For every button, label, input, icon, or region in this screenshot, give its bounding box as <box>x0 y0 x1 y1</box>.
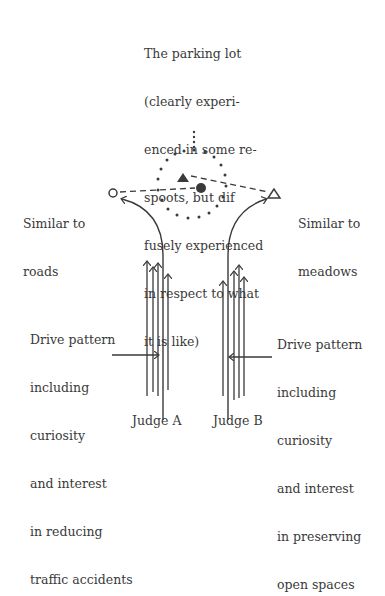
label-line: enced in some re- <box>144 142 263 158</box>
label-line: traffic accidents <box>30 572 133 588</box>
label-line: Similar to <box>298 216 360 232</box>
label-line: curiosity <box>277 433 362 449</box>
parking-lot-label: The parking lot (clearly experi- enced i… <box>144 14 263 366</box>
judge-a-label: Judge A <box>132 413 181 429</box>
label-line: The parking lot <box>144 46 263 62</box>
label-line: Similar to <box>23 216 85 232</box>
label-line: in preserving <box>277 529 362 545</box>
label-line: it is like) <box>144 334 263 350</box>
open-triangle-icon <box>268 189 280 198</box>
similar-to-roads-label: Similar to roads <box>23 184 85 296</box>
label-line: and interest <box>30 476 133 492</box>
label-line: spoots, but dif <box>144 190 263 206</box>
label-line: including <box>277 385 362 401</box>
similar-to-meadows-label: Similar to meadows <box>298 184 360 296</box>
drive-pattern-a-label: Drive pattern including curiosity and in… <box>30 300 133 596</box>
label-line: fusely experienced <box>144 238 263 254</box>
open-circle-icon <box>109 189 117 197</box>
drive-pattern-b-label: Drive pattern including curiosity and in… <box>277 305 362 596</box>
label-line: roads <box>23 264 85 280</box>
label-line: Drive pattern <box>30 332 133 348</box>
judge-b-label: Judge B <box>213 413 263 429</box>
label-line: (clearly experi- <box>144 94 263 110</box>
label-line: Drive pattern <box>277 337 362 353</box>
label-line: curiosity <box>30 428 133 444</box>
label-line: in reducing <box>30 524 133 540</box>
label-line: and interest <box>277 481 362 497</box>
label-line: in respect to what <box>144 286 263 302</box>
label-line: including <box>30 380 133 396</box>
label-line: open spaces <box>277 577 362 593</box>
label-line: meadows <box>298 264 360 280</box>
